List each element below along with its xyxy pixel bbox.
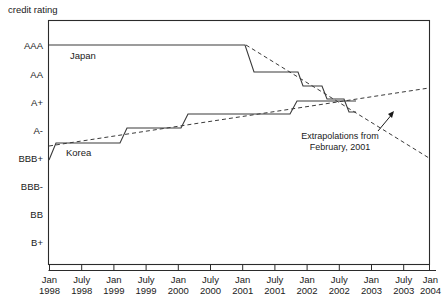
y-tick-label-b-plus: B+ — [31, 237, 43, 248]
x-tick-label-10-top: Jan — [364, 274, 379, 285]
x-tick-label-0-bottom: 1998 — [39, 285, 60, 296]
x-tick-label-12-top: Jan — [423, 274, 438, 285]
annotation-text-line2: February, 2001 — [310, 142, 370, 152]
y-axis: AAA AA A+ A- BBB+ BBB- BB B+ — [18, 40, 43, 248]
x-tick-label-11-bottom: 2003 — [393, 285, 414, 296]
annotation-text-line1: Extrapolations from — [301, 131, 379, 141]
credit-rating-chart: credit rating AAA AA A+ A- BBB+ BBB- BB … — [0, 0, 445, 300]
x-tick-label-0-top: Jan — [42, 274, 57, 285]
y-tick-label-bbb-minus: BBB- — [21, 181, 43, 192]
y-tick-label-bb: BB — [30, 209, 43, 220]
x-tick-label-2-top: Jan — [106, 274, 121, 285]
x-tick-label-9-bottom: 2002 — [329, 285, 350, 296]
x-tick-label-3-bottom: 1999 — [136, 285, 157, 296]
y-tick-label-a-plus: A+ — [31, 97, 43, 108]
x-tick-label-6-top: Jan — [235, 274, 250, 285]
y-tick-label-aaa: AAA — [24, 40, 44, 51]
y-axis-title: credit rating — [8, 4, 58, 15]
x-tick-label-8-bottom: 2002 — [297, 285, 318, 296]
x-tick-label-12-bottom: 2004 — [420, 285, 441, 296]
x-tick-label-4-top: Jan — [171, 274, 186, 285]
x-tick-label-1-top: July — [73, 274, 90, 285]
y-tick-label-bbb-plus: BBB+ — [18, 153, 43, 164]
extrapolation-annotation: Extrapolations from February, 2001 — [301, 111, 394, 152]
x-tick-label-5-top: July — [202, 274, 219, 285]
x-tick-label-2-bottom: 1999 — [103, 285, 124, 296]
y-tick-label-a-minus: A- — [34, 125, 44, 136]
series-label-japan: Japan — [70, 50, 96, 61]
x-tick-label-7-top: July — [266, 274, 283, 285]
x-axis: Jan 1998 July 1998 Jan 1999 July 1999 Ja… — [39, 265, 441, 296]
x-tick-label-9-top: July — [331, 274, 348, 285]
series-label-korea: Korea — [66, 147, 92, 158]
annotation-arrow-head-icon — [388, 111, 394, 118]
y-tick-label-aa: AA — [30, 69, 43, 80]
x-tick-label-10-bottom: 2003 — [361, 285, 382, 296]
x-tick-label-6-bottom: 2001 — [232, 285, 253, 296]
chart-canvas: credit rating AAA AA A+ A- BBB+ BBB- BB … — [0, 0, 445, 300]
x-tick-label-7-bottom: 2001 — [264, 285, 285, 296]
x-tick-label-11-top: July — [395, 274, 412, 285]
x-tick-label-3-top: July — [138, 274, 155, 285]
x-tick-label-4-bottom: 2000 — [168, 285, 189, 296]
x-tick-label-1-bottom: 1998 — [71, 285, 92, 296]
x-tick-label-8-top: Jan — [299, 274, 314, 285]
x-tick-label-5-bottom: 2000 — [200, 285, 221, 296]
